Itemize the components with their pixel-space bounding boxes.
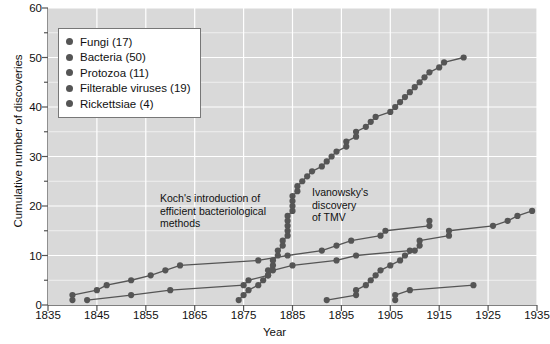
y-tick-10: 10	[29, 250, 42, 262]
legend-item-4: Rickettsiae (4)	[66, 96, 191, 112]
y-axis-tick-labels: 0102030405060	[0, 8, 42, 305]
x-tick-1865: 1865	[182, 309, 208, 321]
y-tick-40: 40	[29, 101, 42, 113]
x-tick-1895: 1895	[329, 309, 355, 321]
legend-item-label: Filterable viruses (19)	[80, 82, 191, 94]
x-axis-tick-labels: 1835184518551865187518851895190519151925…	[48, 309, 537, 325]
annotation-ivanowsky: Ivanowsky'sdiscoveryof TMV	[312, 186, 392, 224]
x-axis-label: Year	[0, 326, 549, 338]
legend-marker-icon	[66, 54, 73, 61]
legend-item-3: Filterable viruses (19)	[66, 81, 191, 97]
legend-item-label: Fungi (17)	[80, 36, 132, 48]
y-tick-30: 30	[29, 151, 42, 163]
annotation-line: of TMV	[312, 211, 392, 224]
chart-legend: Fungi (17)Bacteria (50)Protozoa (11)Filt…	[58, 28, 201, 118]
y-tick-60: 60	[29, 2, 42, 14]
annotation-line: Koch's introduction of	[160, 192, 310, 205]
legend-item-label: Rickettsiae (4)	[80, 98, 154, 110]
x-tick-1925: 1925	[475, 309, 501, 321]
legend-item-1: Bacteria (50)	[66, 50, 191, 66]
series-2	[84, 247, 413, 303]
legend-marker-icon	[66, 85, 73, 92]
x-tick-1885: 1885	[280, 309, 306, 321]
x-tick-1905: 1905	[378, 309, 404, 321]
legend-marker-icon	[66, 38, 73, 45]
y-tick-20: 20	[29, 200, 42, 212]
x-tick-1875: 1875	[231, 309, 257, 321]
legend-item-label: Bacteria (50)	[80, 51, 146, 63]
annotation-koch: Koch's introduction ofefficient bacterio…	[160, 192, 310, 230]
legend-item-2: Protozoa (11)	[66, 65, 191, 81]
annotation-line: discovery	[312, 199, 392, 212]
series-1	[236, 54, 467, 303]
x-tick-1845: 1845	[84, 309, 110, 321]
legend-marker-icon	[66, 69, 73, 76]
x-tick-1835: 1835	[35, 309, 61, 321]
x-tick-1935: 1935	[524, 309, 550, 321]
legend-item-0: Fungi (17)	[66, 34, 191, 50]
legend-item-label: Protozoa (11)	[80, 67, 149, 79]
annotation-line: methods	[160, 217, 310, 230]
annotation-line: efficient bacteriological	[160, 205, 310, 218]
x-tick-1915: 1915	[426, 309, 452, 321]
legend-marker-icon	[66, 100, 73, 107]
annotation-line: Ivanowsky's	[312, 186, 392, 199]
x-tick-1855: 1855	[133, 309, 159, 321]
series-4	[392, 282, 476, 303]
y-tick-50: 50	[29, 52, 42, 64]
